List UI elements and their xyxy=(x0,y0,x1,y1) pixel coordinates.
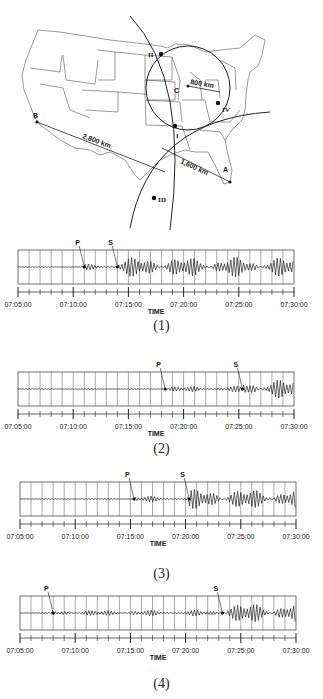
time-tick: 07:15:00 xyxy=(117,647,144,654)
time-tick: 07:20:00 xyxy=(172,533,199,540)
time-tick: 07:25:00 xyxy=(227,533,254,540)
x-axis-label: TIME xyxy=(148,308,165,315)
time-tick: 07:15:00 xyxy=(115,423,142,430)
time-tick: 07:10:00 xyxy=(62,533,89,540)
time-tick: 07:10:00 xyxy=(62,647,89,654)
seismogram-1: PS07:05:0007:10:0007:15:0007:20:0007:25:… xyxy=(4,239,307,315)
time-tick: 07:05:00 xyxy=(4,301,31,308)
time-tick: 07:20:00 xyxy=(172,647,199,654)
time-tick: 07:30:00 xyxy=(280,423,307,430)
label-s: S xyxy=(180,471,185,478)
label-p: P xyxy=(75,239,80,246)
caption-3: (3) xyxy=(0,566,323,582)
time-tick: 07:30:00 xyxy=(280,301,307,308)
label-s: S xyxy=(213,585,218,592)
seismogram-2: PS07:05:0007:10:0007:15:0007:20:0007:25:… xyxy=(4,361,307,437)
x-axis-label: TIME xyxy=(148,430,165,437)
x-axis-label: TIME xyxy=(150,654,167,661)
time-tick: 07:05:00 xyxy=(6,647,33,654)
label-p: P xyxy=(156,361,161,368)
time-tick: 07:15:00 xyxy=(117,533,144,540)
time-tick: 07:25:00 xyxy=(225,423,252,430)
time-tick: 07:10:00 xyxy=(60,301,87,308)
time-tick: 07:30:00 xyxy=(282,647,309,654)
caption-4: (4) xyxy=(0,676,323,692)
time-tick: 07:10:00 xyxy=(60,423,87,430)
seismogram-3: PS07:05:0007:10:0007:15:0007:20:0007:25:… xyxy=(6,471,309,547)
label-p: P xyxy=(125,471,130,478)
label-s: S xyxy=(233,361,238,368)
caption-1: (1) xyxy=(0,318,323,334)
time-tick: 07:20:00 xyxy=(170,301,197,308)
time-tick: 07:30:00 xyxy=(282,533,309,540)
label-s: S xyxy=(108,239,113,246)
caption-2: (2) xyxy=(0,441,323,457)
x-axis-label: TIME xyxy=(150,540,167,547)
seismogram-4: PS07:05:0007:10:0007:15:0007:20:0007:25:… xyxy=(6,585,309,661)
time-tick: 07:05:00 xyxy=(6,533,33,540)
time-tick: 07:20:00 xyxy=(170,423,197,430)
time-tick: 07:25:00 xyxy=(227,647,254,654)
label-p: P xyxy=(44,585,49,592)
seismograms: PS07:05:0007:10:0007:15:0007:20:0007:25:… xyxy=(0,0,323,699)
time-tick: 07:05:00 xyxy=(4,423,31,430)
time-tick: 07:15:00 xyxy=(115,301,142,308)
time-tick: 07:25:00 xyxy=(225,301,252,308)
